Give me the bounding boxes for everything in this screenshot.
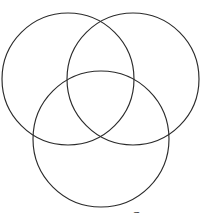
venn-diagram-canvas: [0, 0, 201, 221]
venn-diagram-figure: U: [0, 0, 201, 221]
figure-background: [0, 0, 201, 221]
